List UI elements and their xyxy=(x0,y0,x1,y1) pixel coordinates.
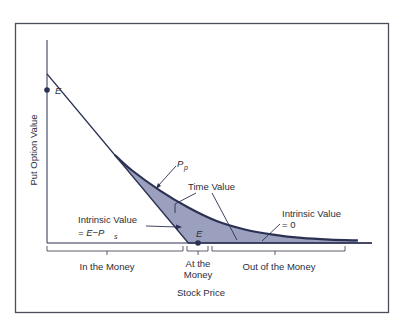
intrinsic-left-line1: Intrinsic Value xyxy=(78,214,137,225)
bracket-at-the-money xyxy=(187,246,208,255)
region-label-out-of-the-money: Out of the Money xyxy=(243,261,316,272)
pp-label: P xyxy=(177,158,184,169)
intrinsic-right-line2: = 0 xyxy=(282,219,295,230)
time-value-label: Time Value xyxy=(188,181,235,192)
e-label-axis: E xyxy=(196,228,203,239)
pp-pointer xyxy=(158,166,176,186)
region-label-in-the-money: In the Money xyxy=(80,261,135,272)
exercise-price-point-top xyxy=(44,87,50,93)
intrinsic-left-pointer xyxy=(146,226,178,227)
intrinsic-right-line1: Intrinsic Value xyxy=(282,208,341,219)
exercise-price-point-axis xyxy=(195,240,201,246)
region-label-at-the-money-1: At the xyxy=(186,258,211,269)
y-axis-label: Put Option Value xyxy=(28,114,39,185)
bracket-out-of-the-money xyxy=(212,246,345,255)
e-label-top: E xyxy=(55,85,62,96)
bracket-in-the-money xyxy=(47,246,183,255)
x-axis-label: Stock Price xyxy=(177,287,225,298)
pp-label-sub: p xyxy=(183,164,188,172)
intrinsic-left-line2: = E−P xyxy=(78,227,105,238)
intrinsic-left-sub: s xyxy=(114,233,118,240)
time-value-pointer-left xyxy=(175,193,196,204)
put-option-chart: E E P p Time Value Intrinsic Value = E−P… xyxy=(0,0,403,328)
region-label-at-the-money-2: Money xyxy=(184,269,213,280)
